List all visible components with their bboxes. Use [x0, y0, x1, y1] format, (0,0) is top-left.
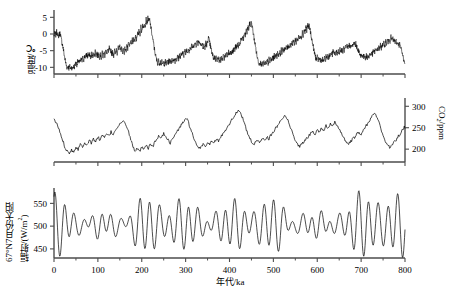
y-tick-label: -10: [35, 63, 47, 73]
y-tick-label: 250: [412, 123, 426, 133]
y-tick-label: 450: [34, 244, 48, 254]
x-tick-label: 0: [52, 265, 57, 275]
x-tick-label: 800: [398, 265, 412, 275]
x-tick-label: 600: [311, 265, 325, 275]
y-tick-label: 5: [43, 13, 48, 23]
data-line: [54, 16, 405, 71]
figure-root: 温度/℃ 50-5-10 CO2/ppm 300250200 67°N7月份太阳…: [0, 0, 457, 295]
y-tick-label: -5: [40, 46, 48, 56]
x-tick-label: 500: [267, 265, 281, 275]
y-tick-label: 550: [34, 199, 48, 209]
y-tick-label: 200: [412, 144, 426, 154]
y-tick-label: 0: [43, 29, 48, 39]
axis-label-x: 年代/ka: [190, 275, 270, 288]
y-tick-label: 500: [34, 221, 48, 231]
axis-label-insolation-post: ): [19, 215, 29, 218]
x-tick-label: 300: [179, 265, 193, 275]
axis-label-co2: CO2/ppm: [434, 106, 447, 166]
axis-label-temperature: 温度/℃: [26, 18, 36, 74]
plot-co2: 300250200: [0, 92, 457, 180]
axis-label-co2-post: /ppm: [437, 122, 447, 141]
x-tick-label: 700: [354, 265, 368, 275]
axis-label-insolation-line2: 辐射/(W/m2): [15, 190, 29, 262]
x-tick-label: 400: [223, 265, 237, 275]
axis-label-co2-pre: CO: [437, 106, 447, 119]
y-tick-label: 300: [412, 102, 426, 112]
axis-label-insolation-superscript: 2: [17, 218, 23, 221]
x-tick-label: 200: [135, 265, 149, 275]
x-tick-label: 100: [91, 265, 105, 275]
axis-label-insolation-pre: 辐射/(W/m: [19, 221, 29, 263]
panel-co2: CO2/ppm 300250200: [0, 92, 457, 180]
axis-label-insolation-line1: 67°N7月份太阳: [4, 190, 14, 262]
panel-temperature: 温度/℃ 50-5-10: [0, 0, 457, 92]
panel-insolation: 67°N7月份太阳 辐射/(W/m2) 01002003004005006007…: [0, 180, 457, 295]
data-line: [54, 110, 405, 154]
plot-temperature: 50-5-10: [0, 0, 457, 92]
data-line: [54, 191, 405, 258]
